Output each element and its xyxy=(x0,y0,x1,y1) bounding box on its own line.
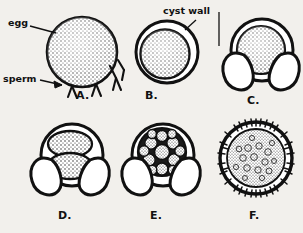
cyst-wall-leader-b xyxy=(185,20,196,30)
panel-A-egg-highlight xyxy=(47,17,117,87)
egg-leader-line xyxy=(30,26,56,33)
label-sperm: sperm xyxy=(3,74,36,84)
panel-A xyxy=(30,17,124,98)
panel-letter-A: A. xyxy=(76,90,89,101)
panel-C xyxy=(219,12,299,90)
panel-D-flap-left xyxy=(31,158,61,195)
panel-letter-C: C. xyxy=(247,95,260,106)
panel-F xyxy=(218,119,294,197)
label-egg: egg xyxy=(8,18,28,28)
panel-E-flap-left xyxy=(122,158,152,195)
panel-F-larva-body xyxy=(227,129,285,187)
panel-C-flap-left xyxy=(223,53,253,90)
panel-B xyxy=(136,20,198,83)
figure-canvas xyxy=(0,0,303,233)
embryo-development-figure: egg sperm cyst wall A. B. C. D. E. F. xyxy=(0,0,303,233)
panel-D xyxy=(31,124,109,195)
sperm-arrow-head xyxy=(54,81,62,88)
panel-letter-B: B. xyxy=(145,90,158,101)
label-cyst-wall: cyst wall xyxy=(163,6,210,16)
panel-B-egg-highlight xyxy=(141,30,190,79)
panel-letter-E: E. xyxy=(150,210,162,221)
panel-E xyxy=(122,124,200,195)
panel-letter-D: D. xyxy=(58,210,72,221)
panel-letter-F: F. xyxy=(249,210,259,221)
